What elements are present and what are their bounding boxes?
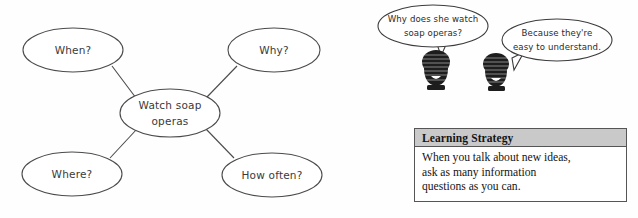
learning-strategy-line-3: questions as you can.	[422, 180, 618, 195]
bubble-text-question-line2: soap operas?	[404, 28, 462, 38]
connector-how-often-center	[206, 129, 234, 158]
learning-strategy-body: When you talk about new ideas, ask as ma…	[415, 147, 626, 197]
learning-strategy-box: Learning Strategy When you talk about ne…	[414, 128, 627, 202]
mind-map-node-center[interactable]: Watch soap operas	[120, 89, 220, 137]
mind-map-node-how-often[interactable]: How often?	[222, 153, 322, 197]
connector-why-center	[207, 66, 237, 97]
speaker-right-base	[488, 86, 505, 91]
speaker-right-scanlines	[483, 58, 509, 82]
connector-where-center	[110, 129, 137, 158]
connector-when-center	[112, 66, 136, 98]
node-label-center-line2: operas	[152, 115, 189, 127]
speaker-left-base	[427, 85, 445, 90]
bubble-text-question-line1: Why does she watch	[388, 14, 479, 24]
node-ellipse-center	[120, 89, 220, 137]
learning-strategy-line-2: ask as many information	[422, 166, 618, 181]
speaker-silhouette-left	[422, 50, 450, 90]
mind-map-node-where[interactable]: Where?	[22, 152, 122, 196]
mind-map-node-when[interactable]: When?	[23, 28, 123, 72]
speech-bubble-answer[interactable]: Because they're easy to understand.	[502, 19, 612, 70]
learning-strategy-title: Learning Strategy	[422, 132, 513, 144]
mind-map-node-why[interactable]: Why?	[228, 28, 320, 72]
learning-strategy-header: Learning Strategy	[415, 129, 626, 147]
node-label-where: Where?	[52, 168, 93, 180]
learning-strategy-line-1: When you talk about new ideas,	[422, 151, 618, 166]
bubble-body-answer	[502, 19, 612, 61]
node-label-how-often: How often?	[242, 169, 303, 181]
bubble-text-answer-line2: easy to understand.	[513, 42, 601, 52]
node-label-when: When?	[55, 44, 92, 56]
node-label-why: Why?	[259, 44, 289, 56]
bubble-text-answer-line1: Because they're	[522, 28, 593, 38]
speaker-silhouette-right	[483, 53, 509, 91]
bubble-body-question	[378, 5, 488, 47]
page-root: When? Why? Where? How often? Watch soap …	[0, 0, 638, 218]
node-label-center-line1: Watch soap	[138, 99, 201, 111]
speech-bubble-question[interactable]: Why does she watch soap operas?	[378, 5, 488, 56]
